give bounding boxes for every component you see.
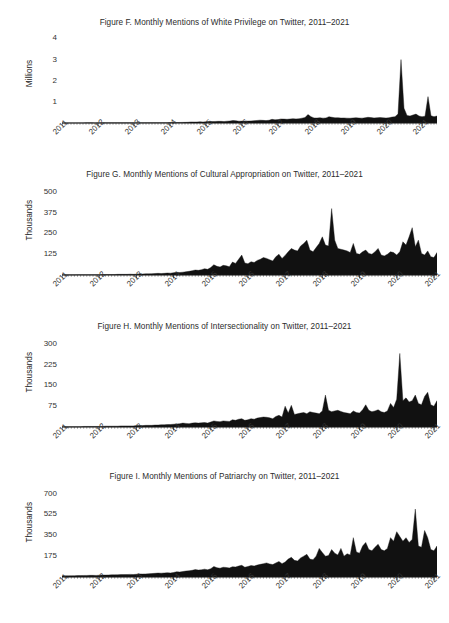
y-tick-label: 375 bbox=[20, 208, 57, 217]
chart-title: Figure G. Monthly Mentions of Cultural A… bbox=[0, 170, 449, 179]
y-tick-label: 300 bbox=[20, 339, 57, 348]
x-tick-label: 2011 bbox=[51, 270, 70, 289]
y-tick-label: 700 bbox=[20, 489, 57, 498]
y-tick-label: 1 bbox=[20, 97, 57, 106]
y-tick-label: 3 bbox=[20, 55, 57, 64]
y-tick-label: 2 bbox=[20, 76, 57, 85]
x-tick-label: 2011 bbox=[51, 118, 70, 137]
figure-h: Figure H. Monthly Mentions of Intersecti… bbox=[0, 322, 449, 461]
plot-area bbox=[62, 334, 437, 431]
series-area bbox=[62, 353, 437, 427]
x-tick-label: 2011 bbox=[51, 572, 70, 591]
y-tick-label: 175 bbox=[20, 551, 57, 560]
y-tick-label: 75 bbox=[20, 401, 57, 410]
plot-area bbox=[62, 30, 437, 127]
y-tick-label: 525 bbox=[20, 509, 57, 518]
plot-area bbox=[62, 182, 437, 279]
figure-i: Figure I. Monthly Mentions of Patriarchy… bbox=[0, 472, 449, 611]
chart-title: Figure F. Monthly Mentions of White Priv… bbox=[0, 18, 449, 27]
x-tick-label: 2011 bbox=[51, 422, 70, 441]
figure-f: Figure F. Monthly Mentions of White Priv… bbox=[0, 18, 449, 157]
x-axis-labels: 2011201220132014201520162017201820192020… bbox=[0, 280, 449, 310]
series-area bbox=[62, 509, 437, 577]
series-area bbox=[62, 209, 437, 275]
plot-area bbox=[62, 484, 437, 581]
x-axis-labels: 2011201220132014201520162017201820192020… bbox=[0, 128, 449, 158]
series-area bbox=[62, 60, 437, 123]
y-tick-label: 350 bbox=[20, 530, 57, 539]
x-axis-labels: 2011201220132014201520162017201820192020… bbox=[0, 582, 449, 612]
y-tick-label: 125 bbox=[20, 249, 57, 258]
y-tick-label: 225 bbox=[20, 360, 57, 369]
y-tick-label: 4 bbox=[20, 33, 57, 42]
y-tick-label: 250 bbox=[20, 228, 57, 237]
figure-g: Figure G. Monthly Mentions of Cultural A… bbox=[0, 170, 449, 309]
y-tick-label: 150 bbox=[20, 380, 57, 389]
y-tick-label: 500 bbox=[20, 187, 57, 196]
chart-title: Figure I. Monthly Mentions of Patriarchy… bbox=[0, 472, 449, 481]
x-axis-labels: 2011201220132014201520162017201820192020… bbox=[0, 432, 449, 462]
chart-title: Figure H. Monthly Mentions of Intersecti… bbox=[0, 322, 449, 331]
